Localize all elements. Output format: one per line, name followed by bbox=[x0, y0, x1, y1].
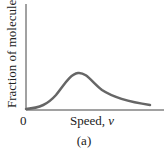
x-tick-zero: 0 bbox=[20, 113, 27, 129]
y-axis-label: Fraction of molecules bbox=[4, 0, 20, 108]
distribution-curve bbox=[26, 73, 150, 109]
chart-plot bbox=[0, 0, 168, 155]
x-axis-label-text: Speed, bbox=[70, 113, 108, 128]
x-axis-variable: v bbox=[108, 113, 114, 128]
figure-caption: (a) bbox=[0, 133, 168, 149]
x-axis-label: Speed, v bbox=[70, 113, 114, 129]
